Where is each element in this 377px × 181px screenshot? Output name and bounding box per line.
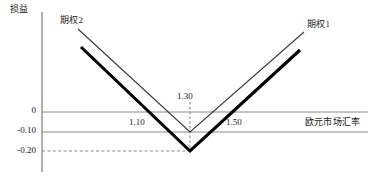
- x-axis-title: 欧元市场汇率: [305, 118, 360, 127]
- x-tick-150: 1.50: [226, 118, 242, 127]
- y-tick-minus-twenty: -0.20: [2, 146, 36, 155]
- y-tick-zero: 0: [8, 106, 36, 115]
- series-label-option2: 期权2: [60, 16, 83, 25]
- x-tick-110: 1.10: [129, 118, 145, 127]
- x-tick-130: 1.30: [177, 92, 193, 101]
- y-axis-title: 损益: [10, 5, 28, 14]
- profit-loss-chart: 损益 欧元市场汇率 期权2 期权1 0 -0.10 -0.20 1.10 1.3…: [0, 0, 377, 181]
- series-line-option2: [78, 29, 304, 132]
- y-tick-minus-ten: -0.10: [2, 126, 36, 135]
- series-label-option1: 期权1: [307, 20, 330, 29]
